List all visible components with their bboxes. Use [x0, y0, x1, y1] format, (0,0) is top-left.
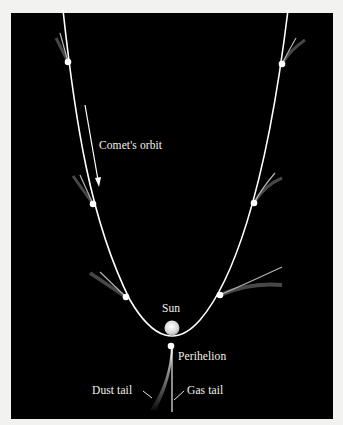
perihelion-label: Perihelion: [178, 350, 226, 362]
dust-tail-leader: [143, 391, 152, 398]
tail-mid-right: [254, 173, 282, 203]
gas-tail-label: Gas tail: [187, 384, 223, 396]
sun-icon: [165, 321, 180, 336]
gas-tail-leader: [174, 391, 184, 400]
orbit-label: Comet's orbit: [99, 139, 162, 151]
dust-tail-label: Dust tail: [92, 384, 132, 396]
comet-orbit-diagram: [0, 0, 343, 425]
tail-perihelion: [150, 346, 173, 412]
sun-label: Sun: [162, 302, 180, 314]
tail-mid-left: [73, 175, 93, 204]
tail-top-right: [282, 38, 305, 64]
tail-low-left: [90, 272, 126, 297]
